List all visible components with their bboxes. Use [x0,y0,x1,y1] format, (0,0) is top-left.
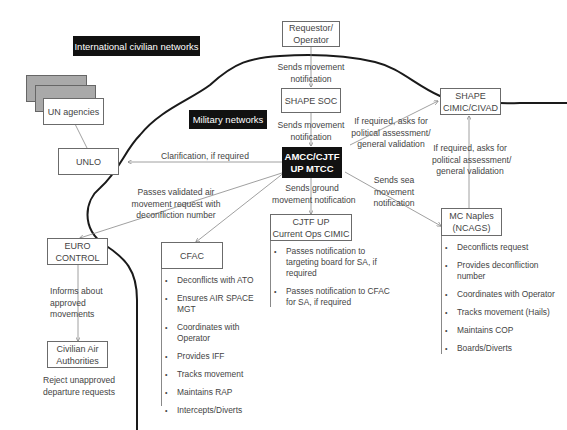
node-un-agencies: UN agencies [43,98,104,125]
list-item: Intercepts/Diverts [163,405,273,416]
node-shape-soc: SHAPE SOC [281,88,341,113]
list-item: Deconflicts with ATO [163,275,273,286]
edge-label-amcc-to-mc-naples: Sends seamovementnotification [366,175,422,210]
node-label: UN agencies [48,106,100,118]
edge-label-euro-to-civil: Informs aboutapprovedmovements [50,286,110,321]
list-item: Coordinates with Operator [443,289,567,300]
edge-label-requestor-to-soc: Sends movementnotification [276,62,346,85]
node-mc-naples-ncags: MC Naples(NCAGS) [441,208,502,236]
list-item: Ensures AIR SPACE MGT [163,293,273,315]
list-item: Maintains COP [443,325,567,336]
civilian-air-note: Reject unapproveddeparture requests [40,375,118,398]
node-eurocontrol: EUROCONTROL [47,238,108,265]
mc-naples-task-list: Deconflicts request Provides deconflicti… [443,242,567,361]
node-amcc-cjtf-up-mtcc: AMCC/CJTFUP MTCC [282,147,342,178]
list-item: Coordinates with Operator [163,322,273,344]
edge-label-soc-to-amcc: Sends movementnotification [276,120,346,143]
list-item: Maintains RAP [163,387,273,398]
cjtf-task-list: Passes notification to targeting board f… [272,246,400,315]
list-item: Passes notification to targeting board f… [272,246,400,279]
node-civilian-air-authorities: Civilian AirAuthorities [47,341,108,368]
node-cfac: CFAC [161,242,223,269]
edge-label-amcc-to-eurocontrol: Passes validated airmovement request wit… [130,187,222,222]
edge-label-amcc-to-unlo: Clarification, if required [150,151,260,163]
list-item: Passes notification to CFAC for SA, if r… [272,286,400,308]
civilian-networks-label: International civilian networks [73,36,200,56]
node-requestor-operator: Requestor/ Operator [282,21,340,47]
node-cjtf-up-current-ops-cimic: CJTF UPCurrent Ops CIMIC [270,214,352,241]
list-item: Provides IFF [163,351,273,362]
military-networks-label: Military networks [189,110,267,129]
list-item: Provides deconfliction number [443,260,567,282]
mc-list-bracket [441,236,442,354]
node-label: Requestor/ Operator [283,22,339,46]
node-label: CFAC [180,250,204,262]
node-unlo: UNLO [58,148,119,175]
edge-label-amcc-to-shape-cimic: If required, asks forpolitical assessmen… [349,116,433,151]
list-item: Boards/Diverts [443,343,567,354]
cjtf-list-bracket [270,241,271,307]
list-item: Deconflicts request [443,242,567,253]
edge-label-mc-to-shape-cimic: If required, asks forpolitical assessmen… [432,143,508,178]
cfac-task-list: Deconflicts with ATO Ensures AIR SPACE M… [163,275,273,423]
node-shape-cimic-civad: SHAPECIMIC/CIVAD [440,88,501,115]
list-item: Tracks movement [163,369,273,380]
node-label: SHAPE SOC [285,95,338,107]
edge-label-amcc-to-cjtf: Sends groundmovement notification [272,183,352,206]
cfac-list-bracket [161,269,162,406]
node-label: UNLO [76,156,101,168]
list-item: Tracks movement (Hails) [443,307,567,318]
